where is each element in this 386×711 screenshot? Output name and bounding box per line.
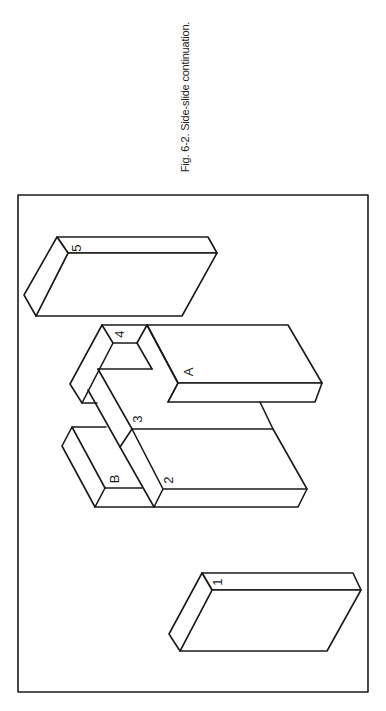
- label-B: B: [107, 475, 122, 484]
- block-1: 1: [169, 573, 361, 651]
- label-4: 4: [112, 330, 127, 337]
- block-5: 5: [24, 237, 217, 316]
- label-5: 5: [69, 244, 84, 251]
- label-A: A: [181, 367, 196, 376]
- block-B: B: [62, 427, 154, 507]
- side-slide-diagram: 5 A 4 3 2 B: [0, 0, 386, 711]
- label-1: 1: [210, 578, 225, 585]
- label-2: 2: [161, 476, 176, 483]
- block-3: 3: [88, 369, 163, 507]
- label-3: 3: [130, 415, 145, 422]
- block-2: 2: [132, 402, 307, 507]
